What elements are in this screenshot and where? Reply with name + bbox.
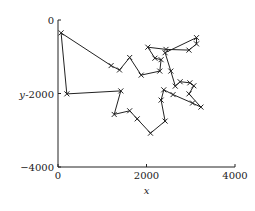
y-tick-label: −4000 xyxy=(20,162,54,173)
route-markers xyxy=(59,30,204,135)
x-axis-label: x xyxy=(144,185,150,196)
x-tick-label: 4000 xyxy=(222,170,247,181)
x-tick-label: 2000 xyxy=(134,170,159,181)
city-marker xyxy=(135,116,140,121)
city-marker xyxy=(148,131,153,136)
city-marker xyxy=(109,63,114,68)
route-line xyxy=(61,33,201,133)
axes xyxy=(58,20,235,167)
city-marker xyxy=(198,105,203,110)
ticks: 0200040000-2000−4000 xyxy=(20,15,248,181)
y-tick-label: -2000 xyxy=(25,89,54,100)
x-tick-label: 0 xyxy=(55,170,61,181)
city-marker xyxy=(186,91,191,96)
tsp-route-chart: 0200040000-2000−4000 x y xyxy=(0,0,255,211)
city-marker xyxy=(190,101,195,106)
y-tick-label: 0 xyxy=(48,15,54,26)
city-marker xyxy=(191,83,196,88)
y-axis-label: y xyxy=(18,89,25,100)
city-marker xyxy=(117,67,122,72)
city-marker xyxy=(171,92,176,97)
city-marker xyxy=(127,55,132,60)
